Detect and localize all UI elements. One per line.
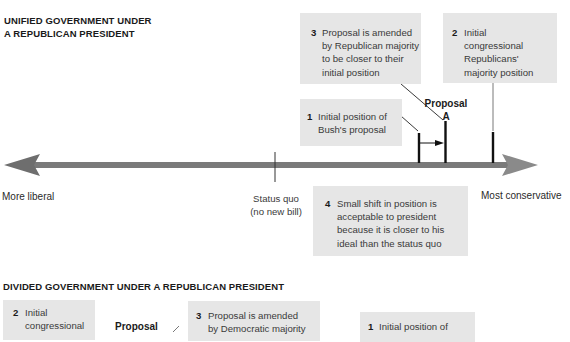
step-number: 2 xyxy=(452,26,457,39)
step-number: 3 xyxy=(311,26,316,39)
status-quo-label: Status quo (no new bill) xyxy=(240,192,312,218)
divided-leader-line xyxy=(173,326,179,332)
more-liberal-label: More liberal xyxy=(2,190,54,203)
unified-step2-box: 2 Initial congressional Republicans' maj… xyxy=(443,13,557,83)
step-text: Initial position of xyxy=(379,320,448,333)
shift-arrowhead-icon xyxy=(435,140,444,146)
divided-step2-box: 2 Initial congressional xyxy=(3,300,95,340)
step-text: Small shift in position is acceptable to… xyxy=(337,197,444,250)
step-text: Initial congressional Republicans' major… xyxy=(464,26,533,79)
step-text: Proposal is amended by Republican majori… xyxy=(322,26,419,79)
unified-step3-box: 3 Proposal is amended by Republican majo… xyxy=(300,13,421,84)
step-number: 3 xyxy=(196,309,201,322)
step-number: 1 xyxy=(368,320,373,333)
divided-panel-title: DIVIDED GOVERNMENT UNDER A REPUBLICAN PR… xyxy=(3,280,284,293)
proposal-a-label: Proposal A xyxy=(415,97,477,123)
divided-step1-box: 1 Initial position of xyxy=(360,312,475,342)
step-text: Initial position of Bush's proposal xyxy=(318,110,387,136)
unified-title-line1: UNIFIED GOVERNMENT UNDER xyxy=(4,14,152,27)
step-text: Initial congressional xyxy=(25,306,84,332)
divided-step3-box: 3 Proposal is amended by Democratic majo… xyxy=(188,301,320,341)
unified-panel-title: UNIFIED GOVERNMENT UNDER A REPUBLICAN PR… xyxy=(4,14,152,40)
step-text: Proposal is amended by Democratic majori… xyxy=(208,309,306,335)
unified-title-line2: A REPUBLICAN PRESIDENT xyxy=(4,27,152,40)
most-conservative-label: Most conservative xyxy=(481,189,562,202)
step-number: 2 xyxy=(13,306,18,319)
unified-step1-box: 1 Initial position of Bush's proposal xyxy=(300,99,402,146)
step-number: 4 xyxy=(325,197,330,210)
unified-step4-box: 4 Small shift in position is acceptable … xyxy=(313,186,468,256)
divided-proposal-label: Proposal xyxy=(115,320,173,333)
step-number: 1 xyxy=(307,110,312,123)
ideology-axis-arrow xyxy=(4,154,538,176)
